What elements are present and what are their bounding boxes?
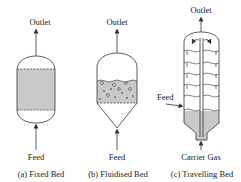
particle xyxy=(103,90,105,92)
travelling-bed-outlet-label: Outlet xyxy=(190,5,212,15)
tray xyxy=(184,84,219,86)
tray xyxy=(184,109,219,111)
particle xyxy=(126,97,128,99)
fixed-bed-caption: (a) Fixed Bed xyxy=(18,169,65,179)
fixed-bed-feed-label: Feed xyxy=(28,152,45,162)
fluidised-bed-caption: (b) Fluidised Bed xyxy=(88,169,148,179)
particle xyxy=(114,96,116,98)
reactor-diagram: Outlet Feed (a) Fixed Bed Outlet xyxy=(0,0,241,182)
fluidised-bed-reactor: Outlet Feed (b) Fluidised Bed xyxy=(88,17,148,179)
fluidised-bed-particles xyxy=(97,80,137,103)
particle xyxy=(110,88,112,90)
travelling-bed-feed-arrow xyxy=(166,104,181,106)
travelling-bed-top-right-flow-arrow xyxy=(204,39,210,42)
travelling-bed-carrier-gas-label: Carrier Gas xyxy=(181,152,220,162)
fluidised-bed-outlet-label: Outlet xyxy=(106,17,128,27)
particle xyxy=(132,95,134,97)
travelling-bed-solids xyxy=(184,111,219,140)
tray xyxy=(184,73,219,75)
fixed-bed-packing xyxy=(17,69,55,110)
travelling-bed-caption: (c) Travelling Bed xyxy=(171,169,234,179)
fluidised-bed-feed-label: Feed xyxy=(109,152,126,162)
fixed-bed-outlet-label: Outlet xyxy=(29,17,51,27)
particle xyxy=(99,98,101,100)
travelling-bed-downcomers xyxy=(187,51,216,89)
travelling-bed-top-left-flow-arrow xyxy=(193,39,199,42)
travelling-bed-feed-label: Feed xyxy=(157,92,174,102)
tray xyxy=(184,62,219,64)
tray xyxy=(184,50,219,52)
fixed-bed-reactor: Outlet Feed (a) Fixed Bed xyxy=(17,17,65,179)
particle xyxy=(121,92,123,94)
tray xyxy=(184,95,219,97)
travelling-bed-reactor: Outlet Feed Carrier Gas ( xyxy=(157,5,234,179)
travelling-bed-trays xyxy=(184,50,219,111)
